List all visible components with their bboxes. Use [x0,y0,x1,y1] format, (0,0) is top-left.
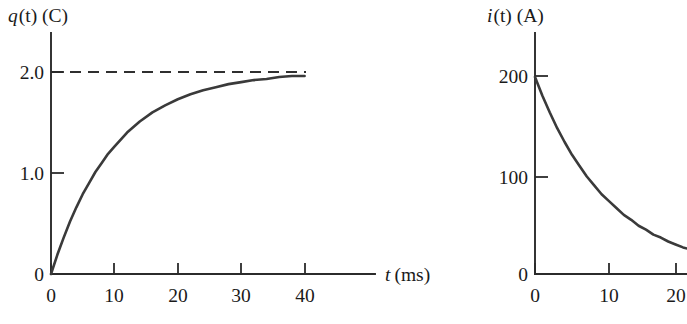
charge-curve [51,76,305,274]
current-x-ticklabel-20: 20 [666,285,686,306]
charge-y-ticklabel-1: 1.0 [20,163,44,184]
current-y-axis-title-var: i [487,5,492,26]
charge-x-axis-title-rest: (ms) [394,264,430,286]
charge-y-ticklabel-2: 2.0 [20,62,44,83]
current-y-axis-title-rest: (t) (A) [493,5,543,27]
current-x-ticklabel-0: 0 [530,285,540,306]
figure-root: q(t) (C) 2.0 1.0 0 0 10 20 30 [0,0,687,324]
charge-x-ticklabel-0: 0 [46,285,56,306]
charge-y-axis-title-var: q [8,5,18,26]
charge-x-ticklabel-20: 20 [168,285,188,306]
current-curve [535,77,687,249]
charge-y-axis-title: q(t) (C) [8,5,68,27]
charge-y-axis-title-rest: (t) (C) [19,5,68,27]
charge-x-ticklabel-30: 30 [231,285,251,306]
charge-x-axis-title-var: t [385,264,391,285]
charge-y-ticklabel-0: 0 [34,264,44,285]
current-plot-svg: i(t) (A) 200 100 0 0 10 20 [440,0,687,324]
current-y-ticklabel-0: 0 [518,264,528,285]
charge-x-ticklabel-40: 40 [295,285,315,306]
current-y-axis-title: i(t) (A) [487,5,544,27]
charge-plot-svg: q(t) (C) 2.0 1.0 0 0 10 20 30 [0,0,440,324]
chart-panel-current: i(t) (A) 200 100 0 0 10 20 [440,0,687,324]
charge-x-ticklabel-10: 10 [104,285,124,306]
current-x-ticklabel-10: 10 [599,285,619,306]
chart-panel-charge: q(t) (C) 2.0 1.0 0 0 10 20 30 [0,0,440,324]
charge-x-axis-title: t(ms) [385,264,430,286]
current-y-ticklabel-100: 100 [499,167,528,188]
current-y-ticklabel-200: 200 [499,66,528,87]
